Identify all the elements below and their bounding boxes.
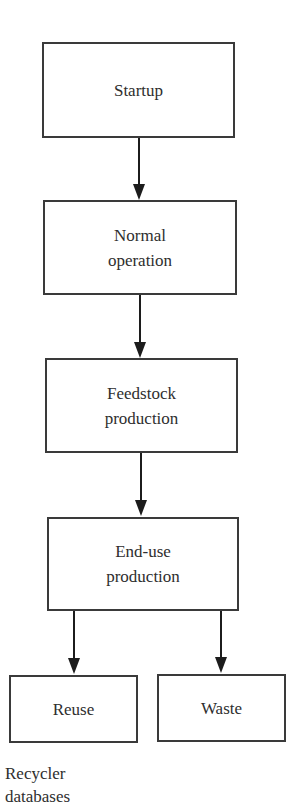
node-waste-label: Waste xyxy=(201,696,242,721)
arrowhead-icon xyxy=(134,342,146,358)
node-normal-operation: Normal operation xyxy=(43,200,237,295)
arrowhead-icon xyxy=(135,500,147,516)
node-normal-operation-label: Normal operation xyxy=(108,223,172,273)
arrow-startup-to-normal-operation xyxy=(138,138,140,186)
node-feedstock-production: Feedstock production xyxy=(45,358,238,453)
arrow-feedstock-to-end-use-production xyxy=(140,453,142,501)
node-end-use-production: End-use production xyxy=(47,517,239,611)
arrow-normal-operation-to-feedstock-production xyxy=(139,295,141,343)
arrow-end-use-to-reuse xyxy=(73,611,75,659)
caption-recycler-databases: Recycler databases xyxy=(5,762,70,805)
node-startup: Startup xyxy=(42,42,235,138)
arrowhead-icon xyxy=(68,658,80,674)
arrowhead-icon xyxy=(133,184,145,200)
node-reuse: Reuse xyxy=(9,675,138,743)
node-reuse-label: Reuse xyxy=(53,697,95,722)
arrowhead-icon xyxy=(215,657,227,673)
node-feedstock-production-label: Feedstock production xyxy=(105,381,179,431)
node-end-use-production-label: End-use production xyxy=(106,539,180,589)
node-startup-label: Startup xyxy=(114,78,163,103)
arrow-end-use-to-waste xyxy=(220,611,222,658)
node-waste: Waste xyxy=(157,674,286,742)
